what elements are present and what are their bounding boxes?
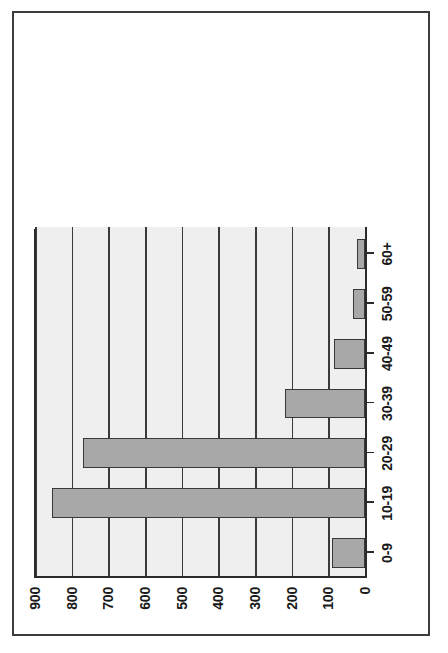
x-axis-category-label: 20-29 [379, 435, 395, 470]
y-axis-tick-label: 200 [284, 587, 300, 610]
y-axis-tick-label: 800 [64, 587, 80, 610]
y-axis-tick-label: 600 [137, 587, 153, 610]
x-axis-tick [367, 302, 374, 304]
bar [285, 388, 365, 418]
y-axis-tick-label: 100 [320, 587, 336, 610]
x-axis-tick [367, 501, 374, 503]
x-axis-category-label: 10-19 [379, 485, 395, 520]
x-axis-category-label: 0-9 [379, 543, 395, 563]
x-axis-category-label: 60+ [379, 242, 395, 265]
y-axis-tick-label: 400 [210, 587, 226, 610]
figure-frame: 0100200300400500600700800900 0-910-1920-… [12, 11, 430, 636]
y-axis-tick-label: 0 [357, 587, 373, 595]
y-axis-tick-label: 300 [247, 587, 263, 610]
rotated-chart-stage: 0100200300400500600700800900 0-910-1920-… [35, 24, 407, 624]
x-axis-category-label: 40-49 [379, 336, 395, 371]
x-axis-tick [367, 351, 374, 353]
bar [52, 488, 365, 518]
y-axis-tick-labels: 0100200300400500600700800900 [35, 578, 365, 624]
y-axis-tick-label: 500 [174, 587, 190, 610]
x-axis-tick [367, 551, 374, 553]
bar [334, 338, 365, 368]
bar [353, 288, 365, 318]
x-axis-tick [367, 401, 374, 403]
x-axis-category-labels: 0-910-1920-2930-3940-4950-5960+ [379, 229, 405, 578]
bar [83, 438, 365, 468]
y-axis-tick-label: 700 [100, 587, 116, 610]
x-axis-tick [367, 252, 374, 254]
bar-series-count [35, 229, 365, 578]
x-axis-tick [367, 451, 374, 453]
bar [357, 238, 365, 268]
x-axis-category-label: 30-39 [379, 386, 395, 421]
bar [332, 538, 365, 568]
bar-chart: 0100200300400500600700800900 0-910-1920-… [35, 24, 407, 624]
y-axis-tick-label: 900 [27, 587, 43, 610]
x-axis-category-label: 50-59 [379, 286, 395, 321]
